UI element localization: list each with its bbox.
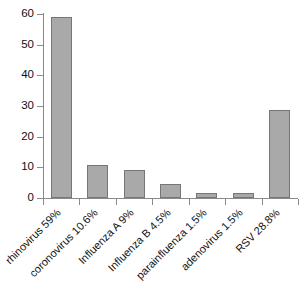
x-tick-mark — [189, 199, 190, 205]
bar — [160, 184, 181, 198]
x-tick-mark — [116, 199, 117, 205]
y-tick-mark — [37, 45, 43, 46]
bar — [87, 165, 108, 198]
x-axis-line — [43, 198, 298, 199]
bar — [51, 17, 72, 198]
bar — [233, 193, 254, 198]
y-tick-mark — [37, 14, 43, 15]
y-tick-label: 10 — [0, 161, 34, 172]
y-tick-mark — [37, 137, 43, 138]
bar — [124, 170, 145, 198]
x-tick-mark — [225, 199, 226, 205]
x-tick-mark — [152, 199, 153, 205]
y-tick-label: 20 — [0, 131, 34, 142]
y-tick-label: 0 — [0, 192, 34, 203]
bar — [196, 193, 217, 198]
x-tick-mark — [43, 199, 44, 205]
y-tick-label: 60 — [0, 8, 34, 19]
bar — [269, 110, 290, 198]
y-tick-mark — [37, 106, 43, 107]
x-tick-mark — [298, 199, 299, 205]
x-tick-mark — [79, 199, 80, 205]
x-tick-mark — [262, 199, 263, 205]
y-tick-label: 30 — [0, 100, 34, 111]
y-axis-line — [43, 13, 44, 199]
y-tick-label: 50 — [0, 39, 34, 50]
y-tick-mark — [37, 167, 43, 168]
y-tick-mark — [37, 75, 43, 76]
y-tick-label: 40 — [0, 69, 34, 80]
